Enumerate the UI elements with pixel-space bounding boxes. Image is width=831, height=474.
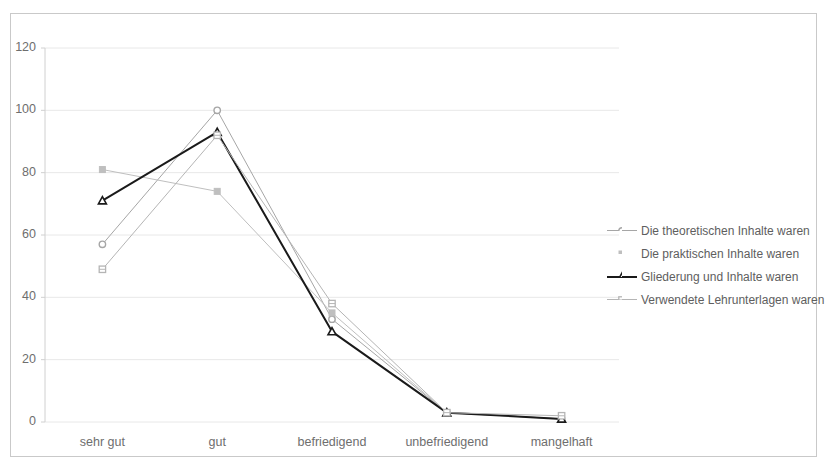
series-1-point-2 bbox=[329, 310, 335, 316]
data-point-marker bbox=[619, 296, 622, 299]
x-tick-label-3: unbefriedigend bbox=[389, 435, 504, 449]
legend-line-swatch bbox=[607, 276, 637, 278]
legend-item-label-1: Die praktischen Inhalte waren bbox=[641, 247, 799, 261]
y-tick-label-100: 100 bbox=[11, 102, 36, 116]
legend-marker-icon bbox=[615, 270, 622, 277]
chart-frame: 120100806040200 sehr gutgutbefriedigendu… bbox=[10, 13, 817, 457]
series-0-point-1 bbox=[214, 107, 220, 113]
legend-key-icon-1 bbox=[607, 247, 637, 261]
y-tick-label-80: 80 bbox=[11, 165, 36, 179]
chart-legend: Die theoretischen Inhalte warenDie prakt… bbox=[607, 220, 831, 312]
legend-marker-icon bbox=[615, 224, 622, 231]
legend-item-2[interactable]: Gliederung und Inhalte waren bbox=[607, 266, 798, 287]
y-tick-label-60: 60 bbox=[11, 227, 36, 241]
legend-item-label-0: Die theoretischen Inhalte waren bbox=[641, 224, 810, 238]
series-3-point-0 bbox=[99, 266, 105, 272]
series-0-point-2 bbox=[329, 316, 335, 322]
legend-item-label-3: Verwendete Lehrunterlagen waren bbox=[641, 293, 824, 307]
series-0-point-0 bbox=[99, 241, 105, 247]
x-tick-label-0: sehr gut bbox=[45, 435, 160, 449]
y-tick-label-20: 20 bbox=[11, 352, 36, 366]
legend-item-label-2: Gliederung und Inhalte waren bbox=[641, 270, 798, 284]
series-3-point-2 bbox=[329, 300, 335, 306]
series-line-3 bbox=[102, 135, 561, 416]
series-2-point-0 bbox=[98, 197, 106, 204]
series-line-2 bbox=[102, 132, 561, 419]
legend-line-swatch bbox=[607, 299, 637, 300]
series-line-1 bbox=[102, 170, 561, 419]
legend-key-icon-0 bbox=[607, 224, 637, 238]
legend-item-1[interactable]: Die praktischen Inhalte waren bbox=[607, 243, 799, 264]
series-3-point-4 bbox=[558, 413, 564, 419]
legend-marker-icon bbox=[615, 293, 622, 300]
x-tick-label-2: befriedigend bbox=[275, 435, 390, 449]
data-point-marker bbox=[619, 227, 622, 230]
series-1-point-1 bbox=[214, 188, 220, 194]
data-point-marker bbox=[618, 273, 622, 277]
y-tick-label-120: 120 bbox=[11, 40, 36, 54]
series-3-point-1 bbox=[214, 132, 220, 138]
legend-key-icon-3 bbox=[607, 293, 637, 307]
x-tick-label-1: gut bbox=[160, 435, 275, 449]
legend-item-0[interactable]: Die theoretischen Inhalte waren bbox=[607, 220, 810, 241]
legend-marker-icon bbox=[615, 247, 622, 254]
legend-key-icon-2 bbox=[607, 270, 637, 284]
x-tick-label-4: mangelhaft bbox=[504, 435, 619, 449]
series-3-point-3 bbox=[444, 409, 450, 415]
legend-item-3[interactable]: Verwendete Lehrunterlagen waren bbox=[607, 289, 824, 310]
series-line-0 bbox=[102, 110, 561, 419]
data-point-marker bbox=[619, 251, 622, 254]
y-tick-label-0: 0 bbox=[11, 414, 36, 428]
legend-line-swatch bbox=[607, 230, 637, 231]
y-tick-label-40: 40 bbox=[11, 289, 36, 303]
series-1-point-0 bbox=[99, 167, 105, 173]
